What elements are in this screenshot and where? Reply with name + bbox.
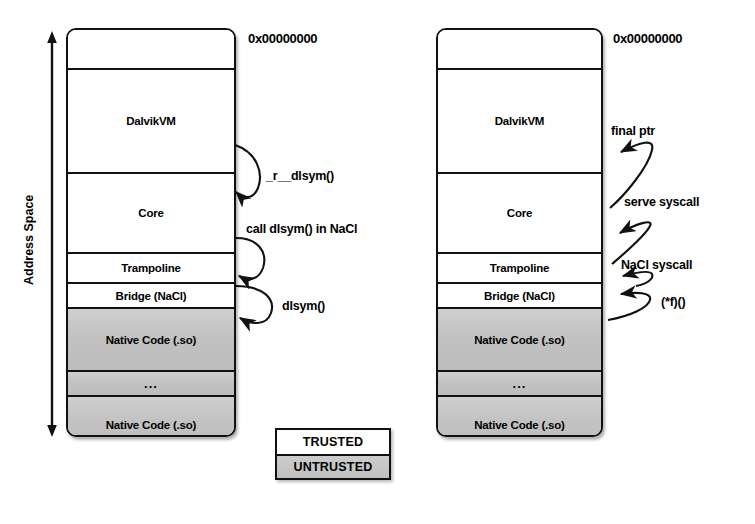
arrow-dlsym	[236, 286, 272, 323]
band-label: DalvikVM	[126, 115, 176, 127]
legend-row-untrusted: UNTRUSTED	[277, 454, 389, 478]
band-label: ...	[513, 376, 527, 391]
band-label: Trampoline	[121, 262, 180, 274]
arrow-r-dlsym	[235, 145, 260, 197]
trust-legend: TRUSTED UNTRUSTED	[275, 428, 391, 480]
band-native-code-2-right: Native Code (.so)	[438, 395, 601, 437]
band-label: DalvikVM	[495, 115, 545, 127]
band-native-code-1-right: Native Code (.so)	[438, 307, 601, 370]
legend-label-untrusted: UNTRUSTED	[294, 460, 373, 474]
band-ellipsis-left: ...	[68, 370, 234, 395]
band-top-reserved-left	[68, 30, 234, 68]
band-label: Native Code (.so)	[474, 334, 565, 346]
callout-f-call: (*f)()	[661, 295, 685, 309]
memory-map-right: DalvikVM Core Trampoline Bridge (NaCl) N…	[436, 28, 603, 437]
band-dalvikvm-left: DalvikVM	[68, 68, 234, 172]
band-label: Native Code (.so)	[106, 334, 197, 346]
callout-nacl-syscall: NaCl syscall	[621, 258, 692, 272]
callout-call-dlsym-in-nacl: call dlsym() in NaCl	[246, 222, 357, 236]
callout-serve-syscall: serve syscall	[624, 195, 699, 209]
legend-row-trusted: TRUSTED	[277, 430, 389, 454]
band-bridge-nacl-right: Bridge (NaCl)	[438, 282, 601, 307]
callout-r-dlsym: _r__dlsym()	[266, 169, 334, 183]
figure-canvas: Address Space DalvikVM Core Trampoline B…	[0, 0, 755, 524]
arrow-nacl-syscall	[623, 272, 652, 286]
address-space-label: Address Space	[22, 195, 36, 285]
band-core-left: Core	[68, 172, 234, 252]
arrow-f-call	[608, 293, 650, 320]
address-space-arrow-icon	[46, 31, 60, 437]
band-label: Bridge (NaCl)	[116, 290, 187, 302]
memory-map-left: DalvikVM Core Trampoline Bridge (NaCl) N…	[66, 28, 236, 437]
band-top-reserved-right	[438, 30, 601, 68]
band-label: Trampoline	[490, 262, 549, 274]
band-label: Core	[507, 207, 532, 219]
band-ellipsis-right: ...	[438, 370, 601, 395]
callout-final-ptr: final ptr	[611, 124, 655, 138]
legend-label-trusted: TRUSTED	[303, 435, 363, 449]
band-native-code-2-left: Native Code (.so)	[68, 395, 234, 437]
band-label: Native Code (.so)	[474, 419, 565, 431]
band-label: Bridge (NaCl)	[484, 290, 555, 302]
band-label: Native Code (.so)	[106, 419, 197, 431]
callout-dlsym: dlsym()	[282, 299, 325, 313]
band-native-code-1-left: Native Code (.so)	[68, 307, 234, 370]
address-label-right: 0x00000000	[613, 31, 682, 46]
band-core-right: Core	[438, 172, 601, 252]
arrow-call-dlsym-in-nacl	[236, 238, 264, 279]
address-space-ruler	[46, 31, 60, 437]
band-dalvikvm-right: DalvikVM	[438, 68, 601, 172]
band-trampoline-right: Trampoline	[438, 252, 601, 282]
address-label-left: 0x00000000	[248, 31, 317, 46]
band-trampoline-left: Trampoline	[68, 252, 234, 282]
band-label: Core	[138, 207, 163, 219]
band-label: ...	[144, 376, 158, 391]
band-bridge-nacl-left: Bridge (NaCl)	[68, 282, 234, 307]
